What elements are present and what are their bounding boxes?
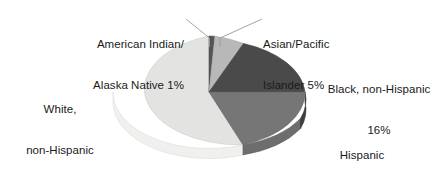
label-white-non-hispanic: White, non-Hispanic 58% [8, 76, 112, 169]
label-hispanic: Hispanic 20% [312, 122, 412, 169]
label-white-non-hispanic-line2: non-Hispanic [8, 144, 112, 158]
label-asian-pacific-line1: Asian/Pacific [263, 38, 383, 52]
label-black-non-hispanic-line1: Black, non-Hispanic [316, 83, 442, 97]
label-hispanic-line1: Hispanic [312, 149, 412, 163]
label-white-non-hispanic-line1: White, [8, 103, 112, 117]
label-american-indian-line1: American Indian/ [62, 38, 184, 52]
pie-chart-figure: American Indian/ Alaska Native 1% Asian/… [0, 0, 444, 169]
